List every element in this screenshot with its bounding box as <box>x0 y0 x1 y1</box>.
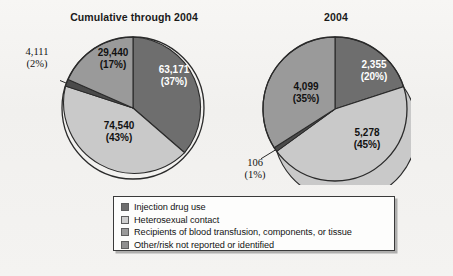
legend-swatch-other-unidentified <box>121 241 129 249</box>
list-item: Heterosexual contact <box>121 214 394 226</box>
chart-title-2004: 2004 <box>262 11 410 23</box>
list-item: Recipients of blood transfusion, compone… <box>121 226 394 238</box>
legend-label-heterosexual-contact: Heterosexual contact <box>134 215 219 225</box>
legend-label-injection-drug-use: Injection drug use <box>134 202 206 212</box>
callout-label-other-cumulative: 4,111 (2%) <box>10 46 64 70</box>
legend-swatch-blood-transfusion <box>121 228 129 236</box>
legend-swatch-injection-drug-use <box>121 203 129 211</box>
pie-chart-figure: Cumulative through 2004 63,171 (37%) 74,… <box>0 0 453 276</box>
leader-line-other-cumulative <box>60 73 66 83</box>
pie-chart-2004 <box>261 35 411 185</box>
legend-label-other-unidentified: Other/risk not reported or identified <box>134 240 274 250</box>
list-item: Injection drug use <box>121 201 394 213</box>
chart-title-cumulative: Cumulative through 2004 <box>58 11 210 23</box>
transmission-category-legend: Injection drug use Heterosexual contact … <box>113 196 395 251</box>
leader-line-other-2004 <box>261 150 276 163</box>
legend-swatch-heterosexual-contact <box>121 216 129 224</box>
legend-label-blood-transfusion: Recipients of blood transfusion, compone… <box>134 227 352 237</box>
pie-chart-cumulative <box>60 35 208 183</box>
pie-cumulative-svg <box>60 35 208 183</box>
pie-2004-svg <box>261 35 411 185</box>
callout-value: 4,111 <box>26 46 49 57</box>
callout-percent: (2%) <box>27 58 48 69</box>
list-item: Other/risk not reported or identified <box>121 239 394 251</box>
